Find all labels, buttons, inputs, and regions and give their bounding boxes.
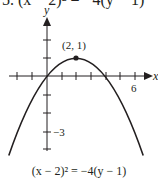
y-axis-arrow-icon	[43, 17, 51, 26]
graph-caption: (x − 2)² = −4(y − 1)	[0, 164, 158, 179]
vertex-label: (2, 1)	[62, 40, 86, 51]
y-axis	[43, 24, 51, 151]
x-axis	[9, 72, 148, 80]
y-axis-label: y	[44, 4, 49, 16]
x-tick-label-6: 6	[131, 83, 137, 94]
x-axis-arrow-icon	[144, 72, 153, 80]
x-axis-label: x	[153, 70, 158, 82]
vertex-point	[73, 55, 78, 60]
y-tick-label-neg3: −3	[53, 127, 65, 138]
